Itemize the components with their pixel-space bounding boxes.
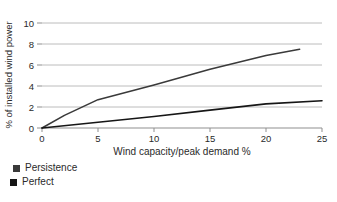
svg-text:15: 15 — [205, 133, 216, 144]
chart-gridlines — [42, 23, 322, 107]
svg-text:10: 10 — [149, 133, 160, 144]
svg-text:6: 6 — [29, 60, 34, 71]
svg-text:8: 8 — [29, 39, 34, 50]
svg-text:20: 20 — [261, 133, 272, 144]
chart-series-lines — [42, 49, 322, 128]
legend-item-perfect: Perfect — [10, 175, 77, 189]
chart-legend: Persistence Perfect — [10, 161, 77, 189]
svg-text:10: 10 — [23, 18, 34, 29]
svg-text:0: 0 — [39, 133, 44, 144]
svg-text:25: 25 — [317, 133, 328, 144]
svg-text:4: 4 — [29, 81, 34, 92]
svg-text:0: 0 — [29, 123, 34, 134]
perfect-swatch-icon — [10, 179, 17, 186]
persistence-swatch-icon — [13, 165, 20, 172]
legend-item-persistence: Persistence — [13, 161, 77, 175]
wind-power-chart: 02468100510152025 Wind capacity/peak dem… — [0, 0, 337, 202]
x-axis-title: Wind capacity/peak demand % — [113, 146, 250, 157]
y-axis-title: % of installed wind power — [3, 21, 14, 128]
legend-label-persistence: Persistence — [25, 161, 77, 175]
legend-label-perfect: Perfect — [22, 175, 54, 189]
svg-text:2: 2 — [29, 102, 34, 113]
svg-text:5: 5 — [95, 133, 100, 144]
